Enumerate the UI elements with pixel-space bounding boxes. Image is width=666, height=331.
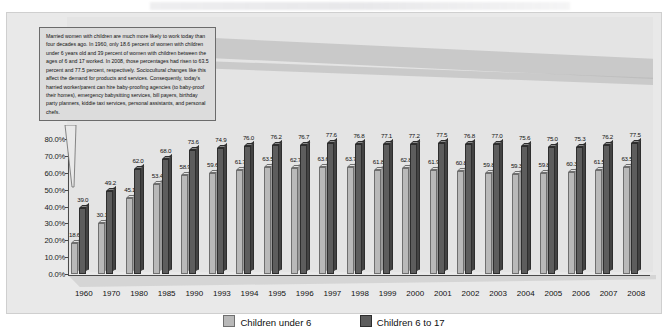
bar-1993-under-6[interactable] (209, 173, 216, 274)
scan-bleed-artifact (150, 2, 570, 10)
bar-2008-6-to-17[interactable] (631, 143, 638, 274)
bar-2000-6-to-17[interactable] (410, 144, 417, 274)
bar-1999-under-6[interactable] (374, 170, 381, 274)
bar-1970-under-6[interactable] (98, 223, 105, 274)
bar-value-label: 76.2 (271, 133, 282, 140)
bar-1960-6-to-17[interactable] (79, 208, 86, 274)
bar-1985-under-6[interactable] (153, 184, 160, 274)
bar-side (417, 139, 420, 271)
bar-2002-6-to-17[interactable] (465, 144, 472, 274)
bar-1980-under-6[interactable] (126, 198, 133, 274)
bar-front (438, 143, 445, 274)
chart-screenshot: 0.0%10.0%20.0%30.0%40.0%50.0%60.0%70.0%8… (0, 0, 666, 331)
bar-value-label: 74.9 (215, 136, 226, 143)
legend-item-under-6[interactable]: Children under 6 (223, 315, 311, 328)
bar-value-label: 76.7 (298, 133, 309, 140)
bar-front (300, 145, 307, 274)
plot-area: 18.639.030.149.245.162.053.468.058.973.6… (69, 139, 649, 274)
bar-2007-under-6[interactable] (595, 170, 602, 274)
bar-1994-under-6[interactable] (236, 170, 243, 274)
bar-1996-under-6[interactable] (291, 168, 298, 274)
legend-swatch-6-to-17 (360, 315, 372, 327)
bar-value-label: 76.8 (353, 132, 364, 139)
bar-front (548, 147, 555, 274)
bar-front (291, 168, 298, 274)
bar-2005-under-6[interactable] (540, 173, 547, 274)
x-axis-label-2005: 2005 (544, 289, 562, 298)
x-axis-label-2001: 2001 (434, 289, 452, 298)
legend-label-6-to-17: Children 6 to 17 (377, 317, 445, 328)
bar-front (134, 169, 141, 274)
bar-1994-6-to-17[interactable] (244, 146, 251, 274)
x-axis-label-1990: 1990 (185, 289, 203, 298)
bar-2006-under-6[interactable] (568, 172, 575, 274)
bar-1990-under-6[interactable] (181, 175, 188, 274)
x-axis-label-1997: 1997 (323, 289, 341, 298)
bar-2003-6-to-17[interactable] (493, 144, 500, 274)
chart-legend: Children under 6 Children 6 to 17 (7, 312, 661, 330)
bar-1970-6-to-17[interactable] (106, 191, 113, 274)
bar-1995-under-6[interactable] (264, 167, 271, 274)
y-axis-tick-label: 30.0% (44, 219, 65, 228)
bar-2004-6-to-17[interactable] (521, 146, 528, 274)
bar-front (264, 167, 271, 274)
x-axis-label-2007: 2007 (600, 289, 618, 298)
bar-1980-6-to-17[interactable] (134, 169, 141, 274)
y-axis-tick-label: 70.0% (44, 151, 65, 160)
bar-front (465, 144, 472, 274)
bar-2001-6-to-17[interactable] (438, 143, 445, 274)
bar-1993-6-to-17[interactable] (217, 148, 224, 274)
bar-front (485, 173, 492, 274)
bar-side (141, 165, 144, 271)
bar-2005-6-to-17[interactable] (548, 147, 555, 274)
legend-item-6-to-17[interactable]: Children 6 to 17 (360, 315, 445, 328)
bar-front (209, 173, 216, 274)
bar-value-label: 75.6 (519, 134, 530, 141)
bar-side (445, 138, 448, 271)
bar-1995-6-to-17[interactable] (272, 145, 279, 274)
bar-1996-6-to-17[interactable] (300, 145, 307, 274)
bar-1990-6-to-17[interactable] (189, 150, 196, 274)
x-axis-label-2000: 2000 (406, 289, 424, 298)
bar-front (181, 175, 188, 274)
bar-1999-6-to-17[interactable] (383, 144, 390, 274)
bar-side (196, 145, 199, 271)
bar-1997-under-6[interactable] (319, 167, 326, 274)
x-axis-label-1980: 1980 (130, 289, 148, 298)
bar-2000-under-6[interactable] (402, 168, 409, 274)
bar-1960-under-6[interactable] (71, 243, 78, 274)
bar-2006-6-to-17[interactable] (576, 147, 583, 274)
bar-1998-6-to-17[interactable] (355, 144, 362, 274)
bar-2004-under-6[interactable] (512, 174, 519, 274)
bar-2001-under-6[interactable] (430, 170, 437, 274)
bar-front (162, 159, 169, 274)
bar-value-label: 68.0 (160, 147, 171, 154)
bar-front (402, 168, 409, 274)
bar-1985-6-to-17[interactable] (162, 159, 169, 274)
bar-front (521, 146, 528, 274)
x-axis-label-1993: 1993 (213, 289, 231, 298)
y-axis-tick-label: 40.0% (44, 202, 65, 211)
bar-1998-under-6[interactable] (347, 167, 354, 274)
bar-front (631, 143, 638, 274)
bar-front (623, 167, 630, 274)
bar-value-label: 75.3 (574, 135, 585, 142)
legend-swatch-under-6 (223, 315, 235, 327)
bar-side (472, 140, 475, 271)
bar-front (512, 174, 519, 274)
bar-2007-6-to-17[interactable] (603, 145, 610, 274)
bar-1997-6-to-17[interactable] (327, 143, 334, 274)
bar-front (430, 170, 437, 274)
y-axis-tick-label: 80.0% (44, 135, 65, 144)
bar-side (528, 142, 531, 271)
bar-2003-under-6[interactable] (485, 173, 492, 274)
bar-value-label: 77.5 (436, 131, 447, 138)
bar-2008-under-6[interactable] (623, 167, 630, 274)
bar-front (383, 144, 390, 274)
bar-front (153, 184, 160, 274)
bar-front (126, 198, 133, 274)
bar-side (362, 140, 365, 271)
callout-textbox: Married women with children are much mor… (39, 27, 216, 121)
bar-2002-under-6[interactable] (457, 171, 464, 274)
bar-side (500, 139, 503, 271)
